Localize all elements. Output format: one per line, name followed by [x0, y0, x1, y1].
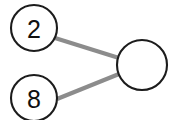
node-empty-circle[interactable]	[117, 40, 167, 90]
edge-node2-to-node-empty	[55, 38, 119, 58]
node-link-diagram: 2 8	[0, 0, 175, 120]
node-2-label: 2	[27, 15, 41, 43]
node-8-label: 8	[27, 85, 41, 113]
node-2[interactable]: 2	[11, 5, 57, 51]
edge-node8-to-node-empty	[57, 74, 119, 99]
diagram-canvas: 2 8	[0, 0, 175, 120]
edge-group	[55, 38, 119, 99]
node-8[interactable]: 8	[11, 75, 57, 120]
node-empty[interactable]	[117, 40, 167, 90]
node-group: 2 8	[11, 5, 167, 120]
